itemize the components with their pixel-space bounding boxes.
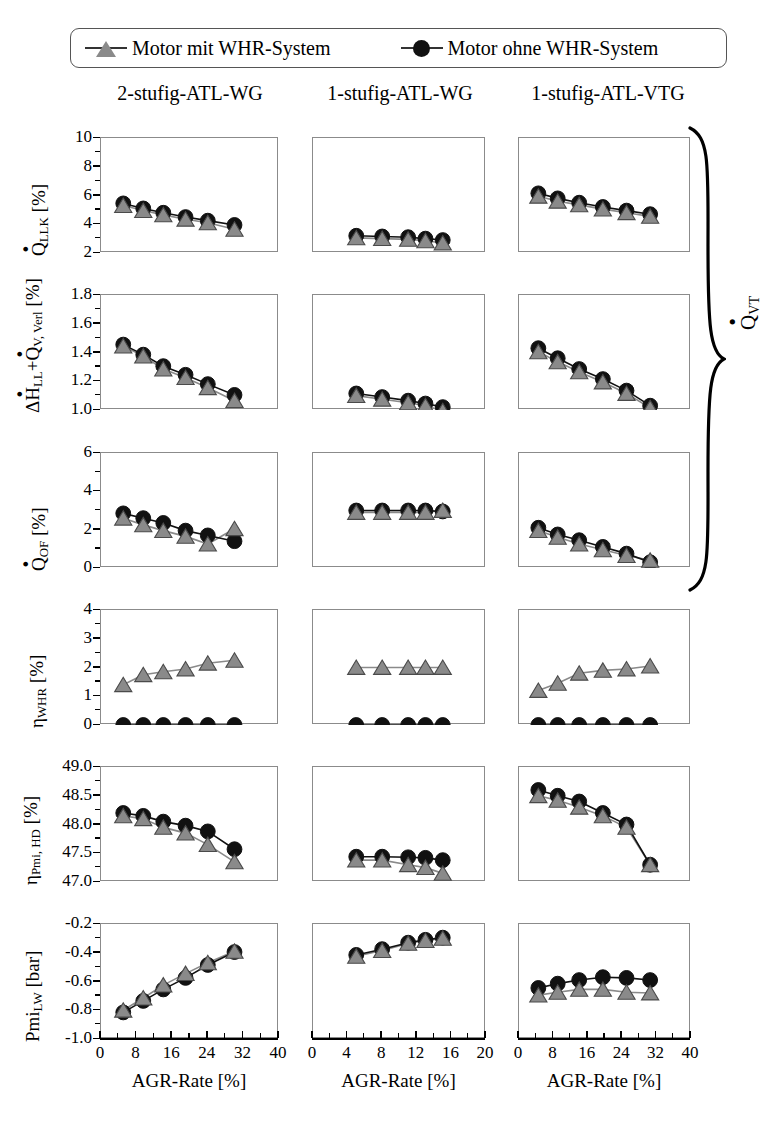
panel-series (313, 138, 486, 253)
plot-panel (518, 923, 690, 1038)
x-axis-label: AGR-Rate [%] (312, 1070, 485, 1092)
y-axis-title: QLLK [%] (28, 184, 52, 256)
y-tick-mark (93, 609, 100, 611)
data-point-mit-whr (434, 866, 451, 880)
legend-item-ohne-whr: Motor ohne WHR-System (401, 37, 659, 60)
x-tick-mark (484, 1031, 486, 1038)
data-point-mit-whr (226, 854, 243, 868)
y-tick-label: 47.5 (40, 842, 92, 862)
column-title-3: 1-stufig-ATL-VTG (516, 82, 700, 105)
y-tick-mark (93, 194, 100, 196)
data-point-mit-whr (530, 683, 547, 697)
y-tick-label: 1.4 (40, 342, 92, 362)
x-tick-label: 32 (234, 1043, 251, 1063)
panel-series (101, 924, 279, 1039)
y-tick-label: -0.2 (40, 913, 92, 933)
x-tick-label: 20 (477, 1043, 494, 1063)
x-axis-label: AGR-Rate [%] (100, 1070, 278, 1092)
plot-panel (518, 766, 690, 881)
panel-series (519, 138, 691, 253)
data-point-ohne-whr (200, 718, 215, 725)
data-point-ohne-whr (156, 718, 171, 725)
y-tick-label: 1.0 (40, 399, 92, 419)
x-tick-mark-minor (188, 1033, 189, 1038)
plot-panel (518, 294, 690, 409)
data-point-ohne-whr (595, 718, 610, 725)
data-point-ohne-whr (531, 718, 546, 725)
plot-panel (312, 137, 485, 252)
x-tick-mark-minor (433, 1033, 434, 1038)
x-tick-mark-minor (329, 1033, 330, 1038)
plot-panel (518, 137, 690, 252)
panel-series (101, 453, 279, 568)
triangle-marker-icon (85, 38, 127, 58)
x-tick-mark (206, 1031, 208, 1038)
x-tick-mark (517, 1031, 519, 1038)
y-tick-mark (93, 452, 100, 454)
data-point-ohne-whr (227, 718, 242, 725)
x-tick-label: 24 (613, 1043, 630, 1063)
y-tick-mark (93, 980, 100, 982)
y-tick-mark (93, 322, 100, 324)
x-tick-label: 8 (548, 1043, 557, 1063)
y-tick-label: 6 (40, 442, 92, 462)
plot-panel (518, 609, 690, 724)
x-tick-label: 12 (407, 1043, 424, 1063)
x-tick-mark (277, 1031, 279, 1038)
x-tick-label: 16 (578, 1043, 595, 1063)
panel-series (313, 610, 486, 725)
data-point-ohne-whr (435, 718, 450, 725)
x-tick-label: 0 (96, 1043, 105, 1063)
y-tick-label: 47.0 (40, 871, 92, 891)
data-point-ohne-whr (643, 718, 658, 725)
x-tick-mark (689, 1031, 691, 1038)
data-point-ohne-whr (178, 718, 193, 725)
x-tick-mark-minor (603, 1033, 604, 1038)
y-tick-mark (93, 724, 100, 726)
plot-panel (312, 609, 485, 724)
y-tick-label: -0.8 (40, 999, 92, 1019)
y-axis-title: ΔHLL+QV, Verl [%] (22, 278, 46, 413)
x-tick-label: 4 (342, 1043, 351, 1063)
data-point-ohne-whr (619, 718, 634, 725)
x-tick-mark (415, 1031, 417, 1038)
column-title-2: 1-stufig-ATL-WG (310, 82, 490, 105)
panel-series (313, 453, 486, 568)
y-tick-mark (93, 380, 100, 382)
y-tick-mark (93, 823, 100, 825)
y-axis-title: PmiLW [bar] (22, 951, 46, 1042)
x-tick-mark (346, 1031, 348, 1038)
x-tick-mark-minor (535, 1033, 536, 1038)
x-tick-mark-minor (117, 1033, 118, 1038)
data-point-mit-whr (199, 837, 216, 851)
data-point-ohne-whr (136, 718, 151, 725)
y-axis-title: QOF [%] (28, 508, 52, 571)
y-tick-label: 1.2 (40, 370, 92, 390)
x-tick-mark (620, 1031, 622, 1038)
x-tick-label: 40 (682, 1043, 699, 1063)
y-tick-label: 8 (40, 156, 92, 176)
x-axis-line (518, 1038, 690, 1040)
y-tick-label: 49.0 (40, 756, 92, 776)
y-tick-mark (93, 567, 100, 569)
legend-item-mit-whr: Motor mit WHR-System (85, 37, 331, 60)
x-tick-mark (655, 1031, 657, 1038)
y-tick-mark (93, 637, 100, 639)
y-tick-mark (93, 137, 100, 139)
x-tick-mark-minor (363, 1033, 364, 1038)
panel-series (313, 924, 486, 1039)
data-point-ohne-whr (116, 718, 131, 725)
data-point-mit-whr (549, 676, 566, 690)
plot-panel (100, 923, 278, 1038)
group-brace-icon (686, 126, 726, 592)
data-point-ohne-whr (375, 718, 390, 725)
group-brace-label: QVT (736, 296, 763, 330)
y-tick-mark (93, 881, 100, 883)
x-tick-mark (135, 1031, 137, 1038)
x-tick-label: 16 (442, 1043, 459, 1063)
data-point-mit-whr (226, 521, 243, 535)
data-point-ohne-whr (418, 718, 433, 725)
x-tick-label: 24 (198, 1043, 215, 1063)
panel-series (519, 924, 691, 1039)
x-tick-mark-minor (398, 1033, 399, 1038)
